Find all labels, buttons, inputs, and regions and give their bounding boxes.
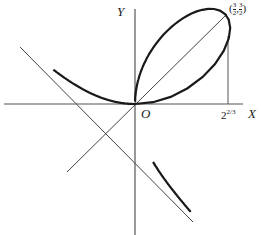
tick-label: 22/3	[221, 108, 235, 121]
y-axis-label: Y	[117, 4, 124, 20]
x-axis-label: X	[248, 106, 256, 122]
origin-label: O	[141, 106, 150, 122]
point-close: )	[242, 2, 246, 14]
point-label: (32,32)	[229, 2, 246, 17]
tick-exponent: 2/3	[227, 108, 236, 116]
